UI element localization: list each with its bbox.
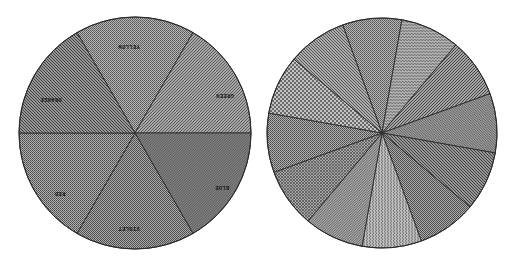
slice-label-violet: VIOLET xyxy=(118,225,140,231)
slice-label-orange: ORANGE xyxy=(40,96,62,102)
slice-label-red: RED xyxy=(54,190,65,196)
pie-charts: YELLOWGREENBLUEVIOLETREDORANGE xyxy=(0,0,515,266)
twelve-sector-pie-chart xyxy=(267,18,497,248)
slice-label-yellow: YELLOW xyxy=(118,43,140,49)
slice-label-green: GREEN xyxy=(216,92,234,98)
color-pie-chart: YELLOWGREENBLUEVIOLETREDORANGE xyxy=(19,17,251,249)
slice-label-blue: BLUE xyxy=(215,184,229,190)
